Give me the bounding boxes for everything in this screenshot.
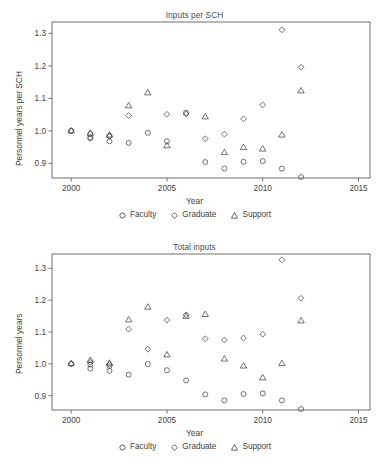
data-point-triangle [298,317,304,322]
data-point-diamond [164,111,170,117]
y-axis-tick-label: 1.2 [35,62,47,71]
series-faculty [69,361,304,411]
legend-label-faculty: Faculty [130,443,156,451]
x-axis-tick-label: 2015 [349,184,368,193]
data-point-diamond [241,335,247,341]
data-point-diamond [145,346,151,352]
triangle-icon [230,443,239,452]
data-point-diamond [202,136,208,142]
data-point-circle [260,159,265,164]
data-point-triangle [202,113,208,118]
data-point-circle [145,362,150,367]
data-point-circle [145,130,150,135]
data-point-diamond [222,337,228,343]
data-point-circle [241,392,246,397]
data-point-triangle [202,311,208,316]
y-axis-tick-label: 1.2 [35,296,47,305]
data-point-triangle [279,360,285,365]
data-point-circle [241,159,246,164]
legend-total-inputs: Faculty Graduate Support [0,443,389,452]
data-point-triangle [145,89,151,94]
data-point-triangle [240,144,246,149]
data-point-triangle [298,87,304,92]
data-point-triangle [221,356,227,361]
data-point-triangle [240,363,246,368]
series-support [68,87,304,154]
y-axis-label-inputs-per-sch: Personnel years per SCH [14,71,24,166]
legend-item-faculty: Faculty [118,443,156,452]
x-axis-tick-label: 2000 [62,184,81,193]
data-point-circle [279,398,284,403]
data-point-circle [222,398,227,403]
data-point-triangle [221,149,227,154]
x-axis-label-total-inputs: Year [0,428,389,438]
data-point-diamond [241,116,247,122]
y-axis-tick-label: 1.1 [35,328,47,337]
data-point-triangle [125,102,131,107]
data-point-triangle [145,304,151,309]
data-point-circle [184,378,189,383]
legend-item-support: Support [230,211,271,220]
triangle-icon [230,211,239,220]
data-point-triangle [164,352,170,357]
y-axis-tick-label: 0.9 [35,159,47,168]
data-point-circle [279,166,284,171]
data-point-triangle [260,374,266,379]
data-point-triangle [279,132,285,137]
x-axis-tick-label: 2010 [254,416,273,425]
series-graduate [68,27,304,142]
y-axis-label-total-inputs: Personnel years [14,313,24,374]
y-axis-tick-label: 1.3 [35,29,47,38]
data-point-diamond [126,113,132,119]
data-point-diamond [298,295,304,301]
plot-frame [52,254,370,410]
data-point-circle [203,160,208,165]
circle-icon [118,211,127,220]
circle-icon [118,443,127,452]
data-point-diamond [260,102,266,108]
x-axis-label-inputs-per-sch: Year [0,196,389,206]
data-point-diamond [164,317,170,323]
legend-inputs-per-sch: Faculty Graduate Support [0,211,389,220]
data-point-circle [299,175,304,180]
data-point-triangle [125,316,131,321]
diamond-icon [170,443,179,452]
legend-label-graduate: Graduate [182,443,216,451]
series-graduate [68,257,304,368]
data-point-circle [164,368,169,373]
series-faculty [69,110,304,179]
plot-frame [52,22,370,178]
chart-panel-inputs-per-sch: Inputs per SCH 20002005201020150.91.01.1… [0,0,389,235]
data-point-circle [107,368,112,373]
legend-label-support: Support [242,443,271,451]
legend-label-support: Support [242,211,271,219]
y-axis-tick-label: 1.3 [35,264,47,273]
diamond-icon [170,211,179,220]
legend-label-graduate: Graduate [182,211,216,219]
data-point-circle [222,166,227,171]
data-point-circle [126,372,131,377]
legend-label-faculty: Faculty [130,211,156,219]
data-point-diamond [279,257,285,263]
legend-item-graduate: Graduate [170,443,216,452]
x-axis-tick-label: 2015 [349,416,368,425]
data-point-diamond [126,326,132,332]
chart-panel-total-inputs: Total inputs 20002005201020150.91.01.11.… [0,232,389,470]
y-axis-tick-label: 1.1 [35,94,47,103]
legend-item-support: Support [230,443,271,452]
x-axis-tick-label: 2010 [254,184,273,193]
series-support [68,304,304,380]
x-axis-tick-label: 2005 [158,416,177,425]
data-point-diamond [222,131,228,137]
legend-item-faculty: Faculty [118,211,156,220]
data-point-diamond [298,64,304,70]
data-point-circle [126,140,131,145]
data-point-triangle [164,142,170,147]
legend-item-graduate: Graduate [170,211,216,220]
data-point-circle [299,407,304,412]
y-axis-tick-label: 1.0 [35,360,47,369]
data-point-diamond [202,336,208,342]
y-axis-tick-label: 1.0 [35,127,47,136]
x-axis-tick-label: 2005 [158,184,177,193]
x-axis-tick-label: 2000 [62,416,81,425]
